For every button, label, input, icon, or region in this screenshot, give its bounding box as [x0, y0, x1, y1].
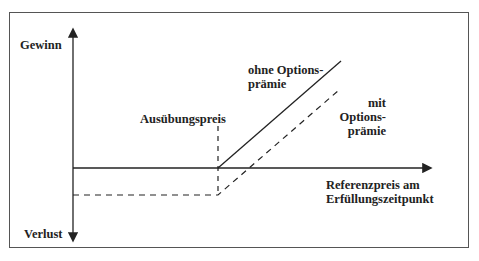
payoff-with-premium [73, 90, 339, 195]
y-axis-bottom-label: Verlust [24, 227, 62, 241]
payoff-diagram [0, 0, 479, 261]
series-label-without-premium: ohne Options- prämie [248, 63, 323, 91]
y-axis-top-label: Gewinn [20, 38, 62, 52]
x-axis-label: Referenzpreis am Erfüllungszeitpunkt [326, 178, 434, 206]
series-label-with-premium: mit Options- prämie [326, 96, 386, 138]
strike-label: Ausübungspreis [140, 112, 226, 126]
